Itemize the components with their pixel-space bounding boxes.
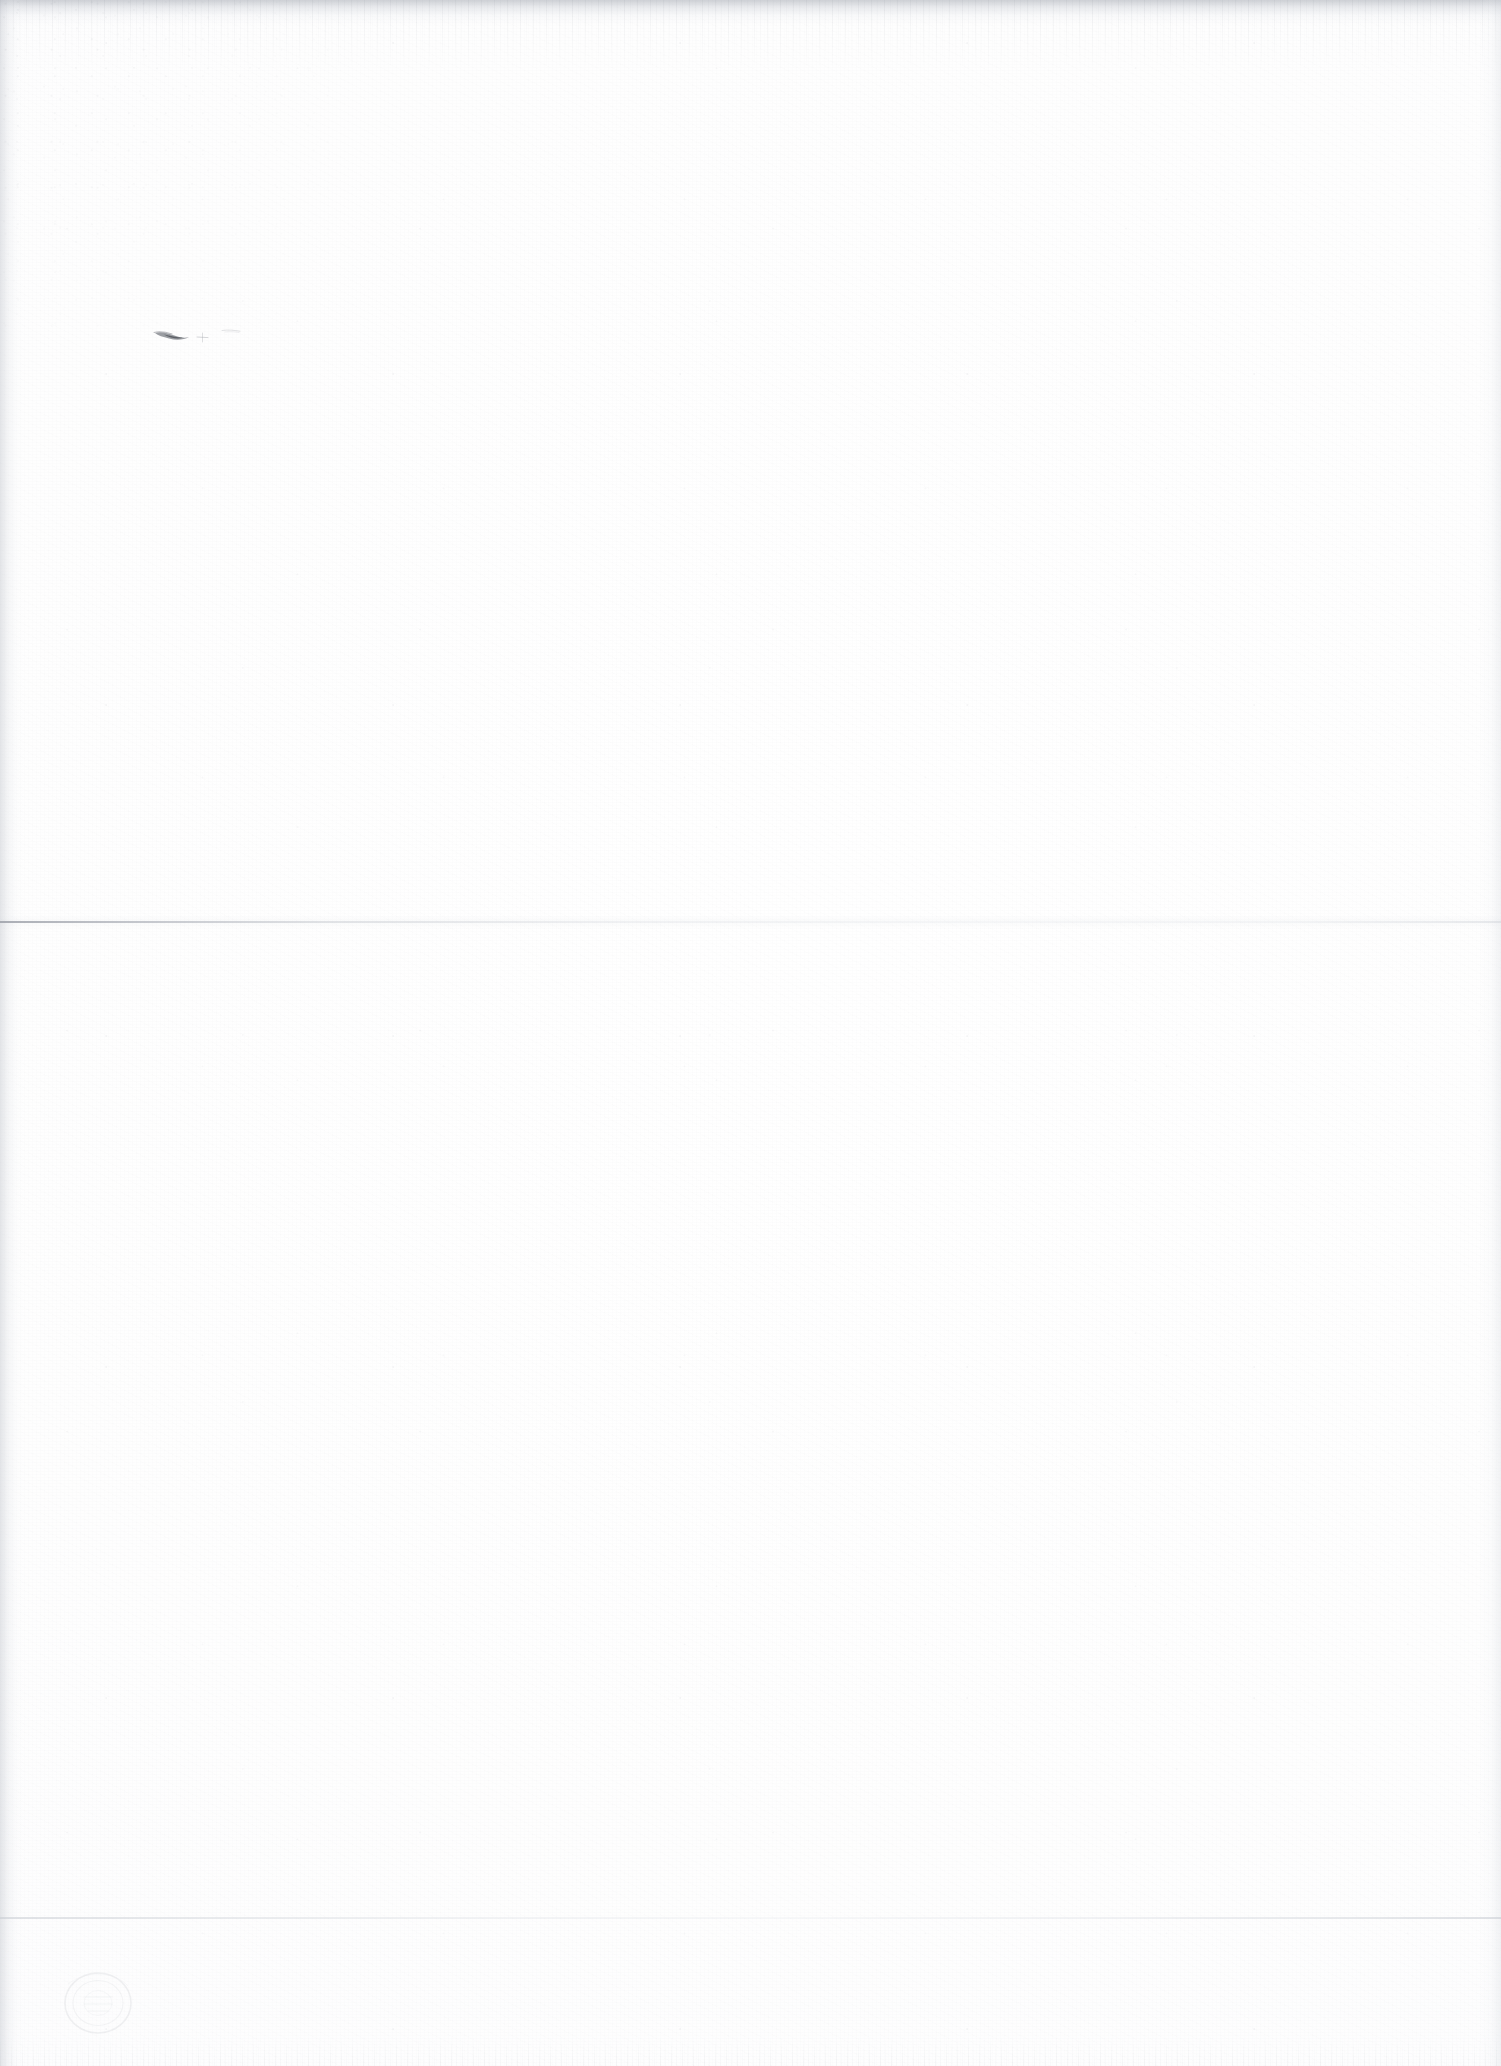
bottom-edge-streaks (0, 2036, 1501, 2066)
ink-smudge (152, 320, 248, 350)
fold-line-lower (0, 1917, 1501, 1919)
right-edge-streaks (1479, 0, 1501, 2066)
fold-line-upper (0, 921, 1501, 923)
stamp-ghost (48, 1962, 148, 2044)
scanned-page: Blank scanned document page with no text… (0, 0, 1501, 2066)
corner-speckle (0, 0, 330, 330)
